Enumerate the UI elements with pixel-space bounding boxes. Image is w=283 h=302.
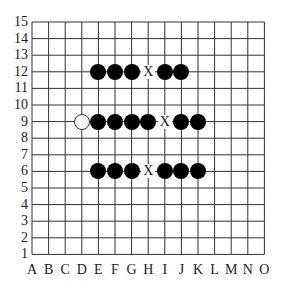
x-mark-H6: X [141,164,155,178]
row-label-3: 3 [0,214,28,228]
black-stone-H9 [140,114,156,130]
column-label-C: C [57,263,73,277]
black-stone-F12 [107,64,123,80]
column-label-J: J [173,263,189,277]
column-label-N: N [240,263,256,277]
row-label-1: 1 [0,247,28,261]
column-label-E: E [90,263,106,277]
column-label-F: F [107,263,123,277]
white-stone-D9 [74,114,90,130]
row-label-13: 13 [0,48,28,62]
row-label-9: 9 [0,115,28,129]
column-label-G: G [124,263,140,277]
black-stone-I12 [157,64,173,80]
row-label-2: 2 [0,231,28,245]
row-label-6: 6 [0,164,28,178]
row-label-5: 5 [0,181,28,195]
column-label-L: L [207,263,223,277]
black-stone-J9 [173,114,189,130]
column-label-O: O [256,263,272,277]
column-label-H: H [140,263,156,277]
column-label-A: A [24,263,40,277]
black-stone-G12 [124,64,140,80]
row-label-15: 15 [0,15,28,29]
black-stone-K9 [190,114,206,130]
black-stone-F9 [107,114,123,130]
column-label-M: M [223,263,239,277]
row-label-10: 10 [0,98,28,112]
row-label-12: 12 [0,65,28,79]
row-label-8: 8 [0,131,28,145]
column-label-K: K [190,263,206,277]
board-grid [0,0,283,302]
row-label-4: 4 [0,198,28,212]
black-stone-G9 [124,114,140,130]
row-label-11: 11 [0,81,28,95]
black-stone-G6 [124,163,140,179]
x-mark-H12: X [141,65,155,79]
black-stone-E9 [90,114,106,130]
row-label-7: 7 [0,148,28,162]
column-label-I: I [157,263,173,277]
column-label-D: D [74,263,90,277]
row-label-14: 14 [0,32,28,46]
column-label-B: B [41,263,57,277]
x-mark-I9: X [158,115,172,129]
